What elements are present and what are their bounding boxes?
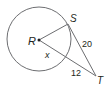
geometry-diagram: R S T x 20 12 xyxy=(0,0,105,86)
label-s: S xyxy=(70,13,77,24)
label-t: T xyxy=(97,75,104,86)
label-12: 12 xyxy=(71,68,81,78)
label-r: R xyxy=(28,35,36,47)
label-x: x xyxy=(44,50,50,60)
center-point-r xyxy=(38,39,41,42)
radius-rs xyxy=(39,24,68,40)
label-20: 20 xyxy=(82,39,92,49)
